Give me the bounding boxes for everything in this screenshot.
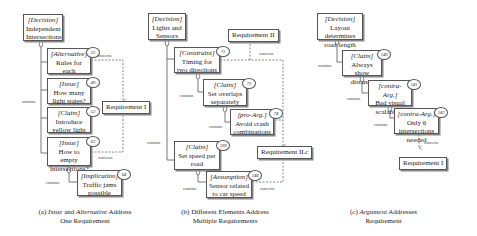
element-type: [pro-Arg.] bbox=[233, 111, 271, 120]
contains-label: contains bbox=[347, 96, 360, 101]
caption-italic: Issue bbox=[48, 208, 62, 216]
caption-italic: Alternative bbox=[76, 208, 107, 216]
element-number: 74 bbox=[269, 108, 283, 119]
issue-box: [Issue] How to empty intersections? bbox=[47, 137, 91, 166]
decision-box: [Decision] Layout determines road length bbox=[317, 13, 363, 40]
issue-box: [Issue] How many light states? bbox=[47, 78, 91, 104]
element-text: Traffic jams possible bbox=[82, 181, 116, 198]
element-number: 109 bbox=[216, 140, 230, 151]
element-text: Layout determines road length bbox=[324, 24, 356, 49]
element-number: 52 bbox=[86, 106, 100, 117]
element-text: Avoid crash combinations bbox=[233, 120, 271, 137]
element-number: 71 bbox=[216, 46, 230, 57]
concerns-label: concerns bbox=[259, 51, 273, 56]
element-type: [Claim] bbox=[206, 81, 244, 90]
element-number: 73 bbox=[242, 78, 256, 89]
element-text: Sensor related to car speed bbox=[209, 182, 249, 199]
caption-line2: One Requirement bbox=[60, 217, 110, 225]
element-text: Set speed per road bbox=[178, 152, 215, 169]
element-type: [Implication] bbox=[80, 172, 119, 181]
element-type: [Constraint] bbox=[177, 49, 217, 58]
constraint-box: [Constraint] Timing for two directions bbox=[174, 47, 220, 73]
contains-label: contains bbox=[147, 140, 160, 145]
caption-prefix: (a) bbox=[39, 208, 49, 216]
requirement-box: Requirement II.c bbox=[257, 146, 312, 159]
element-type: [contra-Arg.] bbox=[371, 82, 409, 99]
element-text: Set overlaps separately bbox=[208, 90, 242, 107]
decision-box: [Decision] Independent Intersections bbox=[23, 14, 63, 41]
element-type: [Issue] bbox=[50, 139, 88, 148]
element-text: Introduce yellow light bbox=[52, 118, 86, 135]
element-type: [Decision] bbox=[151, 15, 183, 24]
element-type: [Decision] bbox=[26, 16, 60, 25]
claim-box: [Claim] Set speed per road bbox=[174, 141, 220, 170]
pro-arg-box: [pro-Arg.] Avoid crash combinations bbox=[230, 109, 274, 135]
claim-box: [Claim] Always show distance bbox=[342, 50, 382, 76]
caption-prefix: (c) bbox=[350, 208, 360, 216]
claim-box: [Claim] Introduce yellow light bbox=[47, 107, 91, 133]
concerns-label: concerns bbox=[98, 155, 112, 160]
assumption-box: [Assumption] Sensor related to car speed bbox=[206, 171, 252, 198]
requirement-box: Requirement I bbox=[399, 157, 447, 170]
element-type: [Claim] bbox=[345, 52, 379, 61]
element-number: 141 bbox=[407, 79, 421, 90]
element-text: How to empty intersections? bbox=[50, 148, 89, 173]
contains-label: contains bbox=[46, 180, 59, 185]
contains-label: contains bbox=[209, 124, 222, 129]
element-number: 63 bbox=[86, 136, 100, 147]
requirement-box: Requirement II bbox=[228, 29, 279, 42]
claim-box: [Claim] Set overlaps separately bbox=[203, 79, 247, 106]
caption: (a) Issue and Alternative Address One Re… bbox=[30, 208, 140, 226]
caption-text: Address bbox=[107, 208, 131, 216]
concerns-label: concerns bbox=[97, 53, 111, 58]
element-type: [Issue] bbox=[50, 80, 88, 89]
element-text: How many light states? bbox=[52, 89, 85, 106]
caption: (b) Different Elements Address Multiple … bbox=[170, 208, 280, 226]
element-type: [Decision] bbox=[320, 15, 360, 24]
contains-label: contains bbox=[180, 93, 193, 98]
requirement-box: Requirement I bbox=[102, 101, 150, 114]
concerns-label: concerns bbox=[260, 186, 274, 191]
caption-italic: Argument bbox=[360, 208, 387, 216]
contains-label: contains bbox=[374, 122, 387, 127]
element-number: 49 bbox=[86, 77, 100, 88]
element-text: Timing for two directions bbox=[177, 58, 217, 75]
element-type: [Alternative] bbox=[50, 50, 88, 59]
element-text: Independent Intersections bbox=[26, 25, 62, 42]
implication-box: [Implication] Traffic jams possible bbox=[77, 170, 122, 196]
element-number: 148 bbox=[248, 170, 262, 181]
concerns-label: concerns bbox=[424, 140, 438, 145]
contains-label: contains bbox=[183, 186, 196, 191]
caption-text: and bbox=[62, 208, 76, 216]
alternative-box: [Alternative] Rules for each intersectio… bbox=[47, 48, 91, 74]
caption-text: Addresses bbox=[387, 208, 417, 216]
contains-label: contains bbox=[22, 99, 35, 104]
contra-arg-box: [contra-Arg.] Bad visual scalability bbox=[368, 80, 412, 106]
element-type: [Claim] bbox=[177, 143, 217, 152]
element-text: Lights and Sensors bbox=[152, 24, 182, 41]
element-number: 140 bbox=[377, 49, 391, 60]
caption-line2: Multiple Requirements bbox=[193, 217, 258, 225]
contra-arg-box: [contra-Arg.] Only 6 intersections neede… bbox=[394, 108, 439, 134]
caption-text: (b) Different Elements Address bbox=[181, 208, 269, 216]
element-type: [Claim] bbox=[50, 109, 88, 118]
element-type: [Assumption] bbox=[209, 173, 249, 182]
caption: (c) Argument Addresses Requirement bbox=[336, 208, 431, 226]
contains-label: contains bbox=[318, 63, 331, 68]
element-type: [contra-Arg.] bbox=[397, 110, 436, 119]
caption-line2: Requirement bbox=[365, 217, 401, 225]
element-number: 142 bbox=[434, 107, 448, 118]
element-number: 64 bbox=[117, 169, 131, 180]
decision-box: [Decision] Lights and Sensors bbox=[148, 13, 186, 40]
